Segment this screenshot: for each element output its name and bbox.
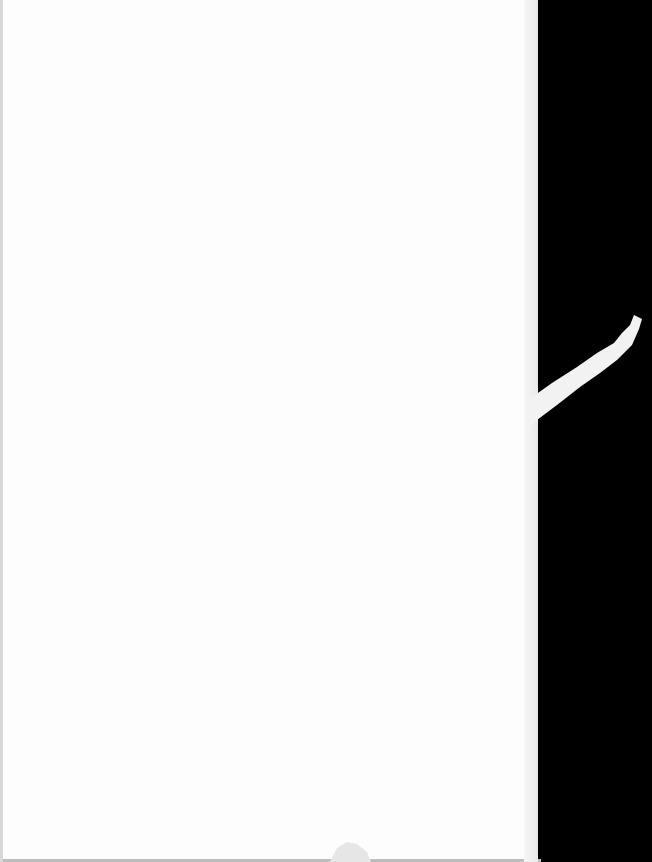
torn-notch [325,840,375,862]
torn-paper-scrap [522,305,647,440]
blank-document-page [0,0,538,862]
